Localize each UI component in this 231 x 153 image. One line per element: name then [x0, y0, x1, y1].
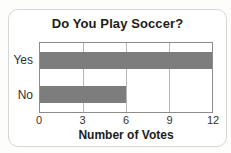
bar-yes	[40, 52, 212, 69]
bar-no	[40, 86, 126, 103]
x-axis-ticks: 0 3 6 9 12	[39, 114, 213, 128]
x-tick-6: 6	[123, 114, 129, 126]
y-axis-label-yes: Yes	[7, 42, 33, 78]
x-tick-3: 3	[79, 114, 85, 126]
x-tick-0: 0	[36, 114, 42, 126]
plot-area	[39, 42, 213, 113]
y-axis-label-no: No	[7, 78, 33, 114]
bar-row-yes	[40, 43, 212, 78]
x-tick-9: 9	[166, 114, 172, 126]
bar-row-no	[40, 78, 212, 113]
y-axis-labels: Yes No	[9, 42, 35, 113]
chart-card: Do You Play Soccer? Yes No 0 3 6 9 12 Nu…	[8, 9, 227, 147]
x-axis-title: Number of Votes	[39, 128, 213, 142]
x-tick-12: 12	[207, 114, 219, 126]
chart-title: Do You Play Soccer?	[9, 16, 226, 31]
